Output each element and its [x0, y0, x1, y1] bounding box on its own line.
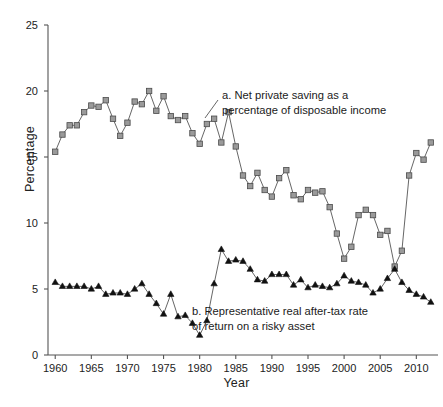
data-point-square: [334, 231, 339, 236]
data-point-square: [67, 123, 72, 128]
data-point-triangle: [211, 280, 217, 286]
plot-area: [0, 0, 443, 407]
data-point-square: [74, 123, 79, 128]
data-point-square: [370, 212, 375, 217]
data-point-triangle: [66, 283, 72, 289]
data-point-square: [341, 256, 346, 261]
data-point-square: [276, 175, 281, 180]
data-point-square: [139, 102, 144, 107]
series-b-annotation: b. Representative real after-tax rate of…: [192, 304, 368, 334]
data-point-triangle: [233, 256, 239, 262]
data-point-square: [204, 121, 209, 126]
data-point-square: [161, 94, 166, 99]
data-point-triangle: [399, 279, 405, 285]
data-point-square: [89, 103, 94, 108]
data-point-square: [385, 228, 390, 233]
data-point-square: [175, 117, 180, 122]
data-point-triangle: [276, 271, 282, 277]
data-point-triangle: [283, 271, 289, 277]
data-point-square: [81, 109, 86, 114]
data-point-square: [305, 187, 310, 192]
series-a-annotation: a. Net private saving as a percentage of…: [222, 88, 386, 118]
data-point-square: [320, 189, 325, 194]
data-point-square: [211, 116, 216, 121]
data-point-square: [406, 173, 411, 178]
y-tick-label: 10: [8, 217, 38, 229]
data-point-square: [233, 144, 238, 149]
data-point-square: [219, 140, 224, 145]
data-point-triangle: [110, 289, 116, 295]
data-point-square: [168, 113, 173, 118]
data-point-square: [183, 113, 188, 118]
data-point-triangle: [74, 283, 80, 289]
x-tick-label: 2010: [394, 362, 438, 374]
data-point-square: [197, 141, 202, 146]
data-point-triangle: [348, 278, 354, 284]
data-point-triangle: [182, 312, 188, 318]
data-point-triangle: [139, 280, 145, 286]
data-point-triangle: [168, 291, 174, 297]
data-point-square: [378, 232, 383, 237]
data-point-square: [248, 183, 253, 188]
data-point-triangle: [131, 286, 137, 292]
data-point-triangle: [312, 282, 318, 288]
data-point-triangle: [413, 291, 419, 297]
data-point-square: [428, 140, 433, 145]
data-point-square: [255, 170, 260, 175]
data-point-square: [284, 168, 289, 173]
data-point-triangle: [117, 289, 123, 295]
y-tick-label: 15: [8, 151, 38, 163]
data-point-triangle: [218, 246, 224, 252]
data-point-square: [118, 133, 123, 138]
data-point-triangle: [95, 283, 101, 289]
data-point-square: [96, 104, 101, 109]
data-point-square: [146, 88, 151, 93]
data-point-square: [125, 120, 130, 125]
y-tick-label: 5: [8, 283, 38, 295]
y-tick-label: 0: [8, 349, 38, 361]
series-a-leader-line: [205, 100, 218, 118]
data-point-square: [103, 98, 108, 103]
data-point-square: [110, 116, 115, 121]
data-point-triangle: [298, 276, 304, 282]
data-point-square: [327, 204, 332, 209]
data-point-square: [262, 187, 267, 192]
data-point-square: [154, 108, 159, 113]
data-point-square: [291, 193, 296, 198]
data-point-square: [399, 248, 404, 253]
data-point-square: [132, 99, 137, 104]
data-point-square: [349, 244, 354, 249]
data-point-square: [240, 173, 245, 178]
data-point-square: [414, 150, 419, 155]
data-point-triangle: [81, 283, 87, 289]
chart-figure: Percentage Year a. Net private saving as…: [0, 0, 443, 407]
data-point-square: [190, 131, 195, 136]
data-point-square: [298, 197, 303, 202]
data-point-triangle: [59, 283, 65, 289]
data-point-triangle: [428, 299, 434, 305]
data-point-square: [53, 149, 58, 154]
y-tick-label: 25: [8, 19, 38, 31]
data-point-square: [356, 212, 361, 217]
data-point-triangle: [269, 271, 275, 277]
data-point-square: [60, 132, 65, 137]
data-point-square: [421, 157, 426, 162]
y-tick-label: 20: [8, 85, 38, 97]
data-point-square: [363, 207, 368, 212]
data-point-square: [269, 194, 274, 199]
data-point-square: [313, 190, 318, 195]
data-point-triangle: [52, 279, 58, 285]
data-point-triangle: [341, 272, 347, 278]
